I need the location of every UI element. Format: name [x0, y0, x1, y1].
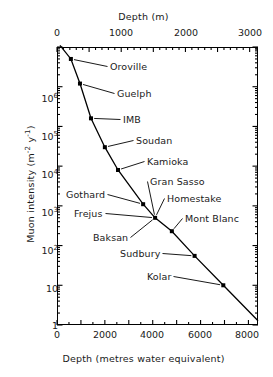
y-tick-base: 10	[41, 93, 53, 104]
point-label-mont-blanc: Mont Blanc	[185, 213, 239, 224]
y-axis-title-exp2: -1	[24, 129, 32, 136]
point-label-homestake: Homestake	[167, 193, 221, 204]
bottom-tick-label-4000: 4000	[140, 329, 164, 340]
top-tick-label-2000: 2000	[174, 27, 198, 38]
y-axis-title-text: Muon intensity (m	[25, 153, 36, 243]
bottom-tick-label-0: 0	[54, 329, 60, 340]
y-tick-base: 10	[41, 245, 53, 256]
y-tick-base: 10	[41, 131, 53, 142]
point-label-kolar: Kolar	[147, 271, 171, 282]
point-label-imb: IMB	[123, 114, 141, 125]
y-tick-label-1e6: 106	[41, 92, 58, 104]
y-axis-title-end: )	[25, 125, 36, 129]
bottom-tick-label-6000: 6000	[188, 329, 212, 340]
y-tick-label-1e4: 104	[41, 168, 58, 180]
y-tick-base: 10	[41, 169, 53, 180]
top-axis-title: Depth (m)	[0, 11, 273, 22]
top-tick-label-1000: 1000	[109, 27, 133, 38]
point-label-soudan: Soudan	[136, 135, 172, 146]
point-label-kamioka: Kamioka	[147, 156, 188, 167]
y-tick-label-10: 10	[46, 283, 58, 294]
y-tick-base: 10	[41, 207, 53, 218]
bottom-tick-label-2000: 2000	[93, 329, 117, 340]
y-tick-label-1e2: 102	[41, 244, 58, 256]
bottom-tick-label-8000: 8000	[235, 329, 259, 340]
y-tick-label-1e3: 103	[41, 206, 58, 218]
y-tick-exp: 4	[54, 168, 58, 176]
y-axis-title-mid: y	[25, 137, 36, 146]
muon-intensity-depth-figure: Depth (m) 0 1000 2000 3000 Muon intensit…	[0, 0, 273, 377]
y-tick-base: 10	[46, 283, 58, 294]
point-label-sudbury: Sudbury	[120, 248, 160, 259]
point-label-guelph: Guelph	[117, 88, 152, 99]
y-tick-exp: 2	[54, 244, 58, 252]
y-tick-exp: 5	[54, 130, 58, 138]
top-tick-label-3000: 3000	[238, 27, 262, 38]
y-axis-title-exp1: -2	[24, 146, 32, 153]
point-label-baksan: Baksan	[93, 232, 128, 243]
y-tick-label-1e5: 105	[41, 130, 58, 142]
top-tick-label-0: 0	[54, 27, 60, 38]
bottom-axis-title: Depth (metres water equivalent)	[0, 353, 273, 364]
y-tick-exp: 6	[54, 92, 58, 100]
y-axis-title: Muon intensity (m-2 y-1)	[24, 104, 36, 264]
point-label-frejus: Frejus	[74, 208, 103, 219]
point-label-gothard: Gothard	[66, 189, 105, 200]
point-label-gran-sasso: Gran Sasso	[150, 176, 205, 187]
point-label-oroville: Oroville	[110, 61, 147, 72]
y-tick-exp: 3	[54, 206, 58, 214]
